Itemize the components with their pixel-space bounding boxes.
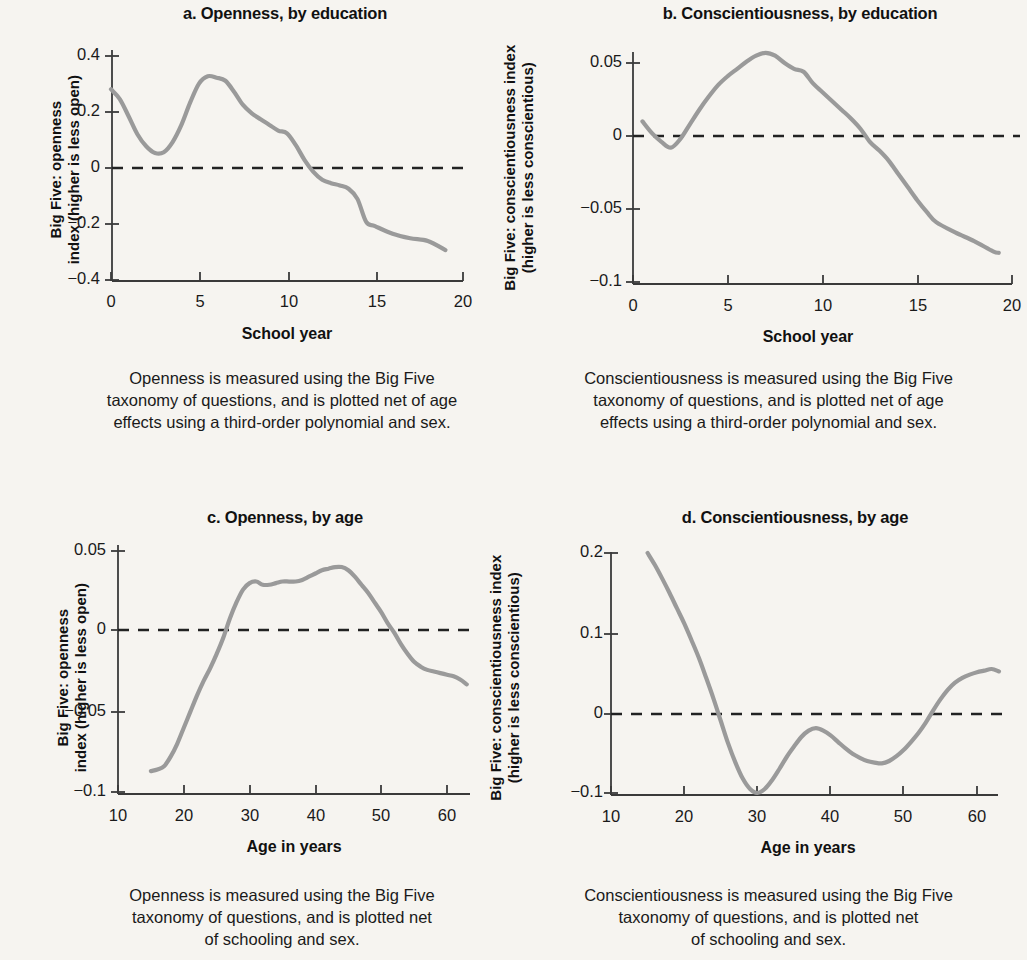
panel-c-xtick-5: 60 [422, 806, 472, 825]
panel-c-xtick-2: 30 [225, 806, 275, 825]
panel-d-xtick-1: 20 [659, 807, 709, 826]
panel-a-ytick-1: 0.2 [40, 101, 100, 120]
panel-b-ytick-0: 0.05 [552, 52, 622, 71]
panel-b-ytick-3: −0.1 [545, 271, 622, 290]
panel-d-ytick-3: −0.1 [526, 782, 603, 801]
panel-b-data-line [642, 53, 998, 253]
panel-a-data-line [111, 76, 445, 250]
panel-d-xtick-2: 30 [732, 807, 782, 826]
panel-c-ytick-0: 0.05 [36, 540, 106, 559]
panel-a-xtick-2: 10 [264, 292, 314, 311]
panel-d-caption: Conscientiousness is measured using the … [521, 884, 1016, 950]
panel-a-ytick-3: −0.2 [33, 213, 100, 232]
panel-a-xtick-1: 5 [175, 292, 225, 311]
panel-c-xtick-3: 40 [291, 806, 341, 825]
panel-c-xtick-1: 20 [159, 806, 209, 825]
figure-root: a. Openness, by education Big Five: open… [0, 0, 1027, 960]
panel-a-ytick-2: 0 [40, 157, 100, 176]
panel-d-xtick-5: 60 [952, 807, 1002, 826]
panel-c-ytick-2: −0.05 [29, 701, 106, 720]
panel-c-plot [0, 490, 500, 810]
panel-b-xtick-1: 5 [703, 296, 753, 315]
panel-b-xtick-3: 15 [893, 296, 943, 315]
panel-b-xtick-2: 10 [798, 296, 848, 315]
panel-b-xtick-4: 20 [987, 296, 1027, 315]
panel-c-caption: Openness is measured using the Big Five … [62, 884, 502, 950]
panel-a-xlabel: School year [162, 325, 412, 343]
panel-d-data-line [648, 553, 999, 793]
panel-b-ytick-2: −0.05 [545, 198, 622, 217]
panel-d-plot [520, 490, 1027, 810]
panel-a-xtick-4: 20 [438, 292, 488, 311]
panel-a-xtick-0: 0 [86, 292, 136, 311]
panel-a-caption: Openness is measured using the Big Five … [62, 367, 502, 433]
panel-c-ytick-3: −0.1 [29, 781, 106, 800]
panel-d-xtick-4: 50 [878, 807, 928, 826]
panel-b-caption: Conscientiousness is measured using the … [521, 367, 1016, 433]
panel-b-ytick-1: 0 [552, 125, 622, 144]
panel-c-xtick-0: 10 [93, 806, 143, 825]
panel-a-ytick-4: −0.4 [33, 269, 100, 288]
panel-d-xtick-3: 40 [805, 807, 855, 826]
panel-a-xtick-3: 15 [352, 292, 402, 311]
panel-b-xlabel: School year [683, 328, 933, 346]
panel-d-ytick-2: 0 [533, 703, 603, 722]
panel-d-ytick-1: 0.1 [533, 623, 603, 642]
panel-c-ytick-1: 0 [36, 619, 106, 638]
panel-c-data-line [151, 567, 467, 771]
panel-c-xlabel: Age in years [169, 838, 419, 856]
panel-d-xlabel: Age in years [683, 839, 933, 857]
panel-d-ytick-0: 0.2 [533, 542, 603, 561]
panel-b-xtick-0: 0 [608, 296, 658, 315]
panel-d-ylabel: Big Five: conscientiousness index (highe… [487, 533, 522, 823]
panel-a-ytick-0: 0.4 [40, 45, 100, 64]
panel-b-plot [520, 0, 1027, 300]
panel-c-xtick-4: 50 [356, 806, 406, 825]
panel-d-xtick-0: 10 [586, 807, 636, 826]
